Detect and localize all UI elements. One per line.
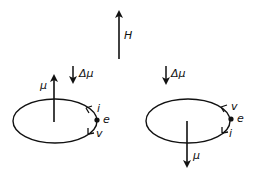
right-velocity-label: v <box>231 101 238 112</box>
left-electron-dot <box>94 117 99 122</box>
left-current-label: i <box>97 103 100 114</box>
field-h-label: H <box>124 30 132 41</box>
left-velocity-label: v <box>96 128 103 139</box>
left-orbit-ellipse <box>13 99 97 143</box>
diagram-graphics <box>0 0 254 176</box>
diamagnetism-diagram: H Δμ μ i e v Δμ v e i μ <box>0 0 254 176</box>
left-mu-label: μ <box>40 80 47 91</box>
left-electron-label: e <box>103 114 110 125</box>
right-current-label: i <box>229 128 232 139</box>
right-mu-label: μ <box>193 150 200 161</box>
right-electron-dot <box>228 116 233 121</box>
right-orbit-ellipse <box>146 99 230 143</box>
left-delta-mu-label: Δμ <box>79 68 94 79</box>
right-delta-mu-label: Δμ <box>171 68 186 79</box>
right-electron-label: e <box>237 113 244 124</box>
